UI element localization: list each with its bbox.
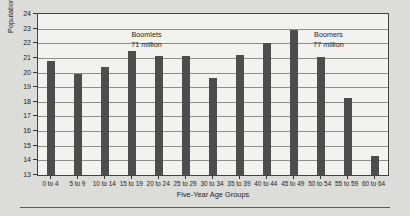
x-axis-tick-label: 50 to 54 [308,180,331,187]
bar [47,61,55,175]
x-axis-tick [185,176,186,179]
page-background: Population in Millions 13141516171819202… [0,0,410,216]
bar-chart-figure: Population in Millions 13141516171819202… [0,0,410,205]
y-axis-tick-label: 22 [23,39,31,46]
bar [263,43,271,175]
y-axis: 131415161718192021222324 [0,13,37,176]
y-axis-tick-label: 21 [23,53,31,60]
x-axis-tick [239,176,240,179]
x-axis-tick-label: 0 to 4 [42,180,58,187]
footer-divider [20,207,390,208]
y-axis-tick-label: 16 [23,127,31,134]
x-axis-tick-label: 10 to 14 [93,180,116,187]
x-axis: 0 to 45 to 910 to 1415 to 1920 to 2425 t… [37,177,389,189]
x-axis-tick-label: 30 to 34 [200,180,223,187]
y-axis-tick-label: 23 [23,24,31,31]
x-axis-tick [131,176,132,179]
x-axis-tick [293,176,294,179]
x-axis-tick-label: 5 to 9 [69,180,85,187]
y-axis-tick-label: 24 [23,10,31,17]
x-axis-tick [104,176,105,179]
x-axis-tick [374,176,375,179]
plot-area: Boomlets 71 million Boomers 77 million [37,13,389,176]
bar [371,156,379,175]
x-axis-tick [50,176,51,179]
x-axis-tick-label: 35 to 39 [227,180,250,187]
bar [344,98,352,175]
annotation-boomers: Boomers 77 million [289,30,369,50]
bar [155,56,163,175]
y-axis-tick-label: 20 [23,68,31,75]
x-axis-tick-label: 60 to 64 [362,180,385,187]
bar [317,57,325,175]
annotation-boomlets: Boomlets 71 million [107,30,187,50]
bar [236,55,244,175]
x-axis-tick-label: 45 to 49 [281,180,304,187]
x-axis-tick [266,176,267,179]
x-axis-tick [158,176,159,179]
annotation-boomers-label: Boomers [314,30,343,39]
y-axis-tick-label: 17 [23,112,31,119]
bar [101,67,109,175]
y-axis-tick-label: 14 [23,156,31,163]
x-axis-tick [77,176,78,179]
bar [209,78,217,175]
y-axis-tick-label: 13 [23,171,31,178]
y-axis-tick-label: 19 [23,83,31,90]
x-axis-tick-label: 25 to 29 [174,180,197,187]
x-axis-title: Five-Year Age Groups [37,190,389,199]
x-axis-tick [347,176,348,179]
x-axis-tick-label: 15 to 19 [120,180,143,187]
annotation-boomlets-label: Boomlets [132,30,162,39]
y-axis-tick-label: 18 [23,97,31,104]
x-axis-tick [320,176,321,179]
x-axis-tick [212,176,213,179]
bar [128,51,136,175]
bar [290,30,298,175]
annotation-boomlets-value: 71 million [107,40,187,50]
x-axis-tick-label: 40 to 44 [254,180,277,187]
bar [74,74,82,175]
bar [182,56,190,175]
y-axis-tick-label: 15 [23,141,31,148]
annotation-boomers-value: 77 million [289,40,369,50]
x-axis-tick-label: 55 to 59 [335,180,358,187]
x-axis-tick-label: 20 to 24 [147,180,170,187]
